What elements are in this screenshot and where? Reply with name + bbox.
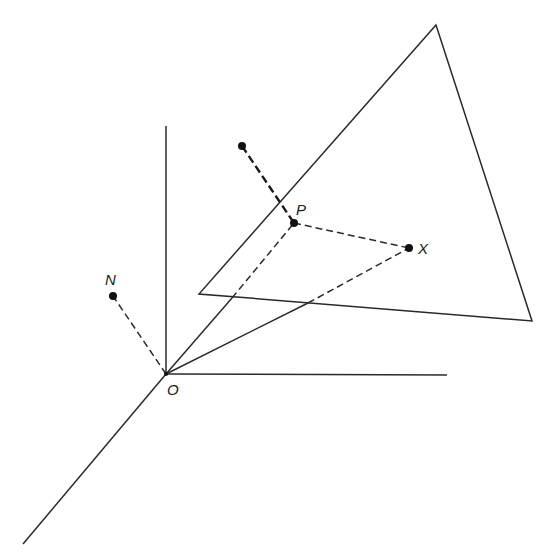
normal-tip-point: [238, 142, 246, 150]
label-o: O: [167, 381, 179, 398]
point-o: [164, 372, 168, 376]
diagonal-axis: [23, 374, 166, 544]
label-x: X: [417, 240, 429, 257]
projection-diagram: N P X O: [0, 0, 552, 560]
line-o-to-p-dashed: [232, 223, 294, 298]
point-x: [405, 244, 413, 252]
line-o-to-n: [113, 296, 166, 374]
point-p: [290, 219, 298, 227]
point-n: [109, 292, 117, 300]
line-o-to-x-solid: [166, 303, 308, 374]
label-p: P: [296, 201, 306, 218]
horizontal-axis: [166, 374, 447, 375]
normal-line-at-p: [242, 146, 294, 223]
line-o-to-x-dashed: [308, 248, 409, 303]
label-n: N: [105, 271, 116, 288]
line-p-to-x: [294, 223, 409, 248]
line-o-to-p-solid: [166, 298, 232, 374]
